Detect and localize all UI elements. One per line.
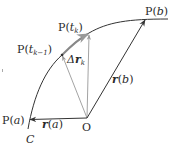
vector-delta-r-k (62, 34, 88, 55)
label-delta-r-k: Δrk (66, 53, 85, 67)
label-origin: O (82, 121, 91, 134)
vector-curve-diagram: P(b) P(tk) P(tk−1) Δrk r(b) P(a) r(a) O … (0, 0, 171, 154)
label-r-a: r(a) (42, 118, 63, 131)
label-p-a: P(a) (2, 114, 25, 127)
point-t-km1-marker (61, 54, 64, 57)
label-p-t-km1: P(tk−1) (17, 43, 52, 57)
label-p-t-k: P(tk) (58, 21, 83, 35)
curve-c (28, 19, 168, 129)
vector-r-b (87, 20, 145, 118)
label-r-b: r(b) (112, 73, 133, 86)
label-p-b: P(b) (145, 5, 168, 18)
vector-r-t-k (87, 35, 89, 118)
label-curve-c: C (26, 133, 35, 146)
edge-artifact (2, 69, 3, 72)
